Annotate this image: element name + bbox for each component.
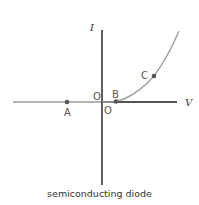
diagram-caption: semiconducting diode [47,188,152,199]
origin-label-y: O [93,91,101,102]
point-a-label: A [64,107,71,118]
point-a [65,100,70,105]
point-c-label: C [141,70,148,81]
point-c [152,74,157,79]
point-b-label: B [112,89,119,100]
i-axis-label: I [89,22,95,33]
origin-label-x: O [104,105,112,116]
iv-characteristic-diagram: A B C O O I V semiconducting diode [0,0,199,205]
v-axis-label: V [185,97,194,108]
